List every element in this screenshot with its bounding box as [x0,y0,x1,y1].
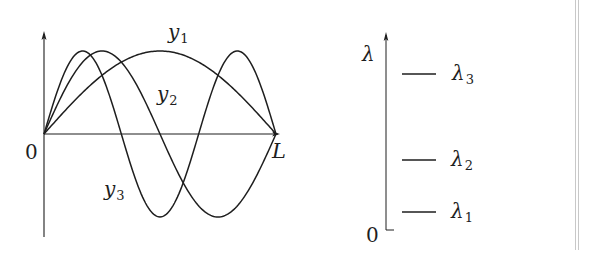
label-y3: y3 [104,179,125,199]
label-y3-name: y [104,177,115,201]
label-lambda1-sub: 1 [465,210,473,225]
label-y2-name: y [157,82,168,106]
label-y2-sub: 2 [169,93,177,108]
label-lambda3: λ3 [452,63,474,83]
label-lambda1: λ1 [451,201,473,221]
label-y1-sub: 1 [180,31,188,46]
label-lambda1-name: λ [451,199,464,223]
label-lambda2: λ2 [451,149,473,169]
eigenvalue-plot [384,32,436,230]
mode-shapes-plot [42,31,281,237]
label-lambda2-name: λ [451,147,464,171]
label-y1-name: y [168,20,179,44]
lambda-axis-label: λ [362,44,375,64]
diagram-canvas [0,0,590,262]
label-y2: y2 [157,84,178,104]
label-lambda3-sub: 3 [466,72,474,87]
origin-label-left: 0 [25,142,38,162]
label-lambda2-sub: 2 [465,158,473,173]
origin-label-right: 0 [366,225,379,245]
label-lambda3-name: λ [452,61,465,85]
end-label-L: L [272,141,286,162]
label-y3-sub: 3 [116,188,124,203]
label-y1: y1 [168,22,189,42]
